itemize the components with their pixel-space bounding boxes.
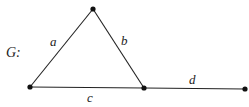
edge-label-a: a xyxy=(50,35,57,48)
edge-label-b: b xyxy=(121,34,128,47)
graph-diagram xyxy=(0,0,249,107)
edge-a xyxy=(30,9,93,87)
edge-label-c: c xyxy=(87,91,93,104)
graph-title: G: xyxy=(6,46,21,60)
edge-d xyxy=(144,88,245,89)
vertex-right xyxy=(242,86,247,91)
vertex-bottom-middle xyxy=(141,85,146,90)
vertex-top xyxy=(90,6,95,11)
edge-b xyxy=(93,9,144,88)
edge-label-d: d xyxy=(189,73,196,86)
edge-c xyxy=(30,87,144,88)
vertex-bottom-left xyxy=(27,84,32,89)
